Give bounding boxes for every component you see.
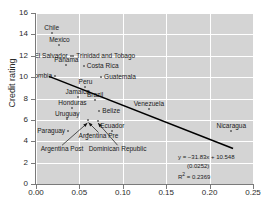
y-axis-tick-label: 16	[4, 9, 28, 17]
y-axis-tick	[31, 56, 35, 57]
y-axis-tick	[31, 141, 35, 142]
data-point-marker	[71, 107, 73, 109]
data-point-label: Argentina Post	[41, 145, 84, 152]
x-axis-tick-label: 0.00	[16, 189, 56, 197]
r-squared-value: = 0.2369	[185, 174, 210, 180]
data-point-marker	[148, 108, 150, 110]
gridline-horizontal	[36, 141, 253, 142]
data-point-label: Panama	[54, 56, 78, 63]
x-axis-tick-label: 0.05	[59, 189, 99, 197]
data-point-marker	[67, 130, 69, 132]
data-point-label: Venezuela	[134, 100, 164, 107]
callout-arrowhead	[83, 123, 87, 127]
y-axis-tick	[31, 34, 35, 35]
data-point-label: Dominican Republic	[89, 145, 147, 152]
gridline-vertical	[166, 13, 167, 184]
data-point-label: Honduras	[58, 99, 86, 106]
data-point-label: Costa Rica	[87, 62, 119, 69]
data-point-marker	[58, 44, 60, 46]
regression-r-squared: R2 = 0.2369	[178, 170, 252, 182]
plot-area: ChileMexicoEl SalvadorTrinidad and Tobag…	[36, 13, 253, 184]
data-point-label: Peru	[79, 78, 93, 85]
y-axis-tick-label: 0	[4, 180, 28, 188]
callout-leader-line	[89, 123, 99, 133]
gridline-vertical	[123, 13, 124, 184]
data-point-marker	[230, 130, 232, 132]
regression-standard-error: (0.0252)	[178, 162, 252, 171]
y-axis-label: Credit rating	[7, 18, 17, 148]
data-point-marker	[111, 130, 113, 132]
x-axis-tick-label: 0.25	[233, 189, 267, 197]
data-point-label: Mexico	[49, 36, 70, 43]
data-point-marker	[94, 99, 96, 101]
callout-arrowhead	[89, 123, 93, 127]
gridline-horizontal	[36, 77, 253, 78]
x-axis-tick-label: 0.10	[103, 189, 143, 197]
x-axis-tick-label: 0.20	[190, 189, 230, 197]
data-point-marker	[97, 120, 99, 122]
data-point-label: Brazil	[87, 91, 103, 98]
data-point-label: Belize	[102, 107, 120, 114]
y-axis-tick	[31, 184, 35, 185]
y-axis-tick	[31, 120, 35, 121]
y-axis-tick	[31, 99, 35, 100]
data-point-label: Trinidad and Tobago	[76, 52, 135, 59]
y-axis-tick	[31, 163, 35, 164]
data-point-marker	[83, 65, 85, 67]
data-point-label: Nicaragua	[216, 122, 246, 129]
y-axis-tick	[31, 77, 35, 78]
x-axis-tick-label: 0.15	[146, 189, 186, 197]
regression-equation: y = −31.83x + 10.548	[178, 153, 252, 162]
data-point-marker	[98, 110, 100, 112]
scatter-chart-figure: ChileMexicoEl SalvadorTrinidad and Tobag…	[0, 0, 267, 210]
y-axis-tick	[31, 13, 35, 14]
gridline-horizontal	[36, 13, 253, 14]
data-point-label: Guatemala	[104, 73, 136, 80]
data-point-marker	[84, 86, 86, 88]
data-point-label: Paraguay	[37, 127, 65, 134]
data-point-label: Ecuador	[100, 122, 124, 129]
y-axis-tick-label: 2	[4, 159, 28, 167]
gridline-horizontal	[36, 34, 253, 35]
x-axis-line	[35, 184, 254, 185]
data-point-label: Chile	[44, 24, 59, 31]
data-point-label: Argentina Pre	[79, 132, 119, 139]
data-point-label: Colombia	[36, 72, 52, 79]
regression-annotation: y = −31.83x + 10.548 (0.0252) R2 = 0.236…	[178, 153, 252, 182]
data-point-label: Uruguay	[55, 110, 80, 117]
data-point-marker	[65, 64, 67, 66]
y-axis-line	[35, 13, 36, 185]
gridline-vertical	[36, 13, 37, 184]
data-point-marker	[87, 119, 89, 121]
